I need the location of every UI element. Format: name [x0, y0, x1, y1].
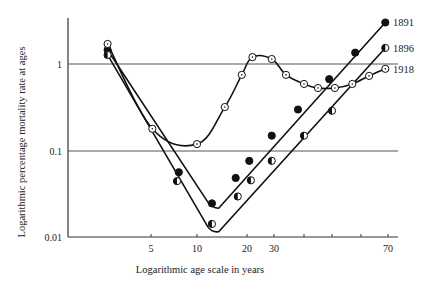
- trend-line-1896: [108, 48, 386, 232]
- mortality-chart: 1 0.1 0.01 5 10 20 30 70 Logarithmic age…: [0, 0, 426, 288]
- series-label-1896: 1896: [393, 43, 414, 54]
- series-1896: [104, 44, 389, 232]
- data-point: [104, 51, 111, 58]
- data-point: [300, 132, 307, 139]
- data-point: [352, 49, 359, 56]
- data-point: [268, 157, 275, 164]
- y-axis-title: Logarithmic percentage mortality rate at…: [16, 47, 27, 238]
- data-point: [238, 71, 245, 78]
- data-point: [193, 141, 200, 148]
- series-1891: [104, 19, 389, 208]
- data-point: [282, 71, 289, 78]
- y-tick-label-0.01: 0.01: [45, 232, 63, 243]
- data-point: [247, 177, 254, 184]
- y-tick-label-1: 1: [57, 59, 62, 70]
- data-point: [382, 19, 389, 26]
- data-point: [268, 55, 275, 62]
- data-point: [366, 72, 373, 79]
- data-point: [268, 132, 275, 139]
- data-point: [173, 178, 180, 185]
- data-point: [382, 44, 389, 51]
- x-tick-label-20: 20: [242, 243, 252, 254]
- x-tick-label-10: 10: [192, 243, 202, 254]
- data-point: [208, 220, 215, 227]
- data-point: [208, 200, 215, 207]
- series-1918: [104, 40, 389, 147]
- x-tick-label-5: 5: [149, 243, 154, 254]
- data-point: [328, 107, 335, 114]
- data-point: [221, 103, 228, 110]
- data-point: [246, 157, 253, 164]
- data-point: [331, 84, 338, 91]
- data-point: [104, 40, 111, 47]
- data-point: [300, 80, 307, 87]
- data-point: [349, 80, 356, 87]
- series-layer: [104, 19, 389, 232]
- data-point: [249, 54, 256, 61]
- data-point: [294, 106, 301, 113]
- trend-line-1891: [108, 22, 386, 208]
- data-point: [326, 76, 333, 83]
- data-point: [232, 174, 239, 181]
- x-tick-label-30: 30: [269, 243, 279, 254]
- x-axis-title: Logarithmic age scale in years: [136, 264, 264, 275]
- data-point: [382, 65, 389, 72]
- x-tick-label-70: 70: [383, 243, 393, 254]
- series-label-1918: 1918: [393, 64, 414, 75]
- data-point: [234, 193, 241, 200]
- data-point: [314, 84, 321, 91]
- data-point: [149, 125, 156, 132]
- series-label-1891: 1891: [393, 17, 414, 28]
- y-tick-label-0.1: 0.1: [50, 146, 63, 157]
